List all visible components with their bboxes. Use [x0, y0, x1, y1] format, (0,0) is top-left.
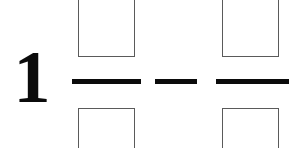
second-fraction-numerator-box[interactable]	[222, 0, 279, 57]
first-fraction-bar	[72, 79, 141, 84]
second-fraction-denominator-box[interactable]	[222, 108, 279, 148]
second-fraction-bar	[216, 79, 289, 84]
minus-sign-icon	[155, 79, 197, 84]
first-fraction-numerator-box[interactable]	[78, 0, 135, 57]
first-fraction-denominator-box[interactable]	[78, 108, 135, 148]
worksheet-canvas: 1	[0, 0, 292, 148]
whole-number-digit: 1	[10, 36, 54, 118]
